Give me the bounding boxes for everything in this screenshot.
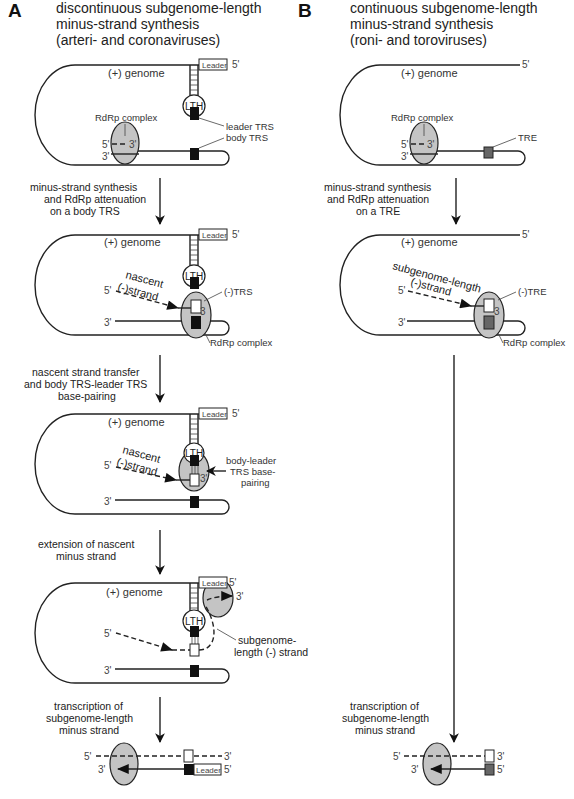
end-label: 3' [104, 665, 112, 676]
pairing-label: TRS base- [230, 466, 275, 477]
panel-b-title-2: minus-strand synthesis [350, 16, 493, 32]
pairing-label: pairing [241, 477, 270, 488]
end-label: 3' [411, 764, 419, 775]
genome-label: (+) genome [108, 416, 165, 428]
step-text: on a TRE [356, 205, 400, 217]
end-label: 5' [497, 764, 505, 775]
stage-a3: Leader 5' (+) genome LTH 3' nascent (-)s… [35, 408, 276, 514]
five-prime-label: 5' [229, 577, 237, 588]
end-label: 5' [398, 285, 406, 296]
leader-label: Leader [202, 231, 227, 240]
leader-label: Leader [202, 61, 227, 70]
five-prime-label: 5' [232, 229, 240, 240]
step-text: minus strand [59, 724, 119, 736]
genome-label: (+) genome [108, 67, 165, 79]
rdrp-complex [181, 292, 211, 338]
panel-b-letter: B [298, 0, 312, 21]
end-label: 5' [224, 764, 232, 775]
end-label: 3' [224, 751, 232, 762]
rdrp-label: RdRp complex [391, 112, 454, 123]
step-text: minus strand [56, 550, 116, 562]
leader-label: Leader [202, 410, 227, 419]
end-label: 3' [98, 764, 106, 775]
panel-a-title-3: (arteri- and coronaviruses) [56, 32, 220, 48]
step-text: minus-strand synthesis [30, 181, 137, 193]
genome-label: (+) genome [401, 67, 458, 79]
lth-label: LTH [185, 616, 203, 627]
step-text: nascent strand transfer [32, 366, 140, 378]
rdrp-complex [110, 743, 138, 785]
five-prime-label: 5' [522, 59, 530, 70]
step-text: and body TRS-leader TRS [24, 378, 147, 390]
end-label: 3' [401, 151, 409, 162]
end-label: 3 [200, 306, 206, 317]
genome-label: (+) genome [401, 236, 458, 248]
leader-label: Leader [196, 766, 221, 775]
stem-ladder [190, 70, 198, 95]
pairing-label: body-leader [226, 455, 276, 466]
step-text: subgenome-length [46, 712, 133, 724]
end-label: 3' [104, 317, 112, 328]
leader-label: Leader [202, 579, 227, 588]
stage-a1: Leader 5' (+) genome LTH leader TRS body… [35, 59, 274, 165]
step-text: minus strand [355, 724, 415, 736]
panel-a-title-1: discontinuous subgenome-length [56, 0, 261, 16]
end-label: 3 [494, 306, 500, 317]
five-prime-label: 5' [522, 229, 530, 240]
step-text: extension of nascent [38, 538, 134, 550]
stage-a5: Leader 5' 3' 3' 5' [84, 743, 232, 785]
sg-label: subgenome- [238, 634, 297, 646]
end-label: 3' [427, 139, 435, 150]
rdrp-label: RdRp complex [210, 337, 273, 348]
genome-label: (+) genome [104, 236, 161, 248]
step-text: and RdRp attenuation [44, 193, 146, 205]
panel-b-title-1: continuous subgenome-length [350, 0, 538, 16]
three-prime-label: 3' [236, 591, 244, 602]
end-label: 5' [102, 139, 110, 150]
five-prime-label: 5' [232, 408, 240, 419]
end-label: 5' [393, 751, 401, 762]
step-text: base-pairing [58, 390, 116, 402]
step-text: transcription of [350, 700, 419, 712]
panel-a-letter: A [8, 0, 22, 21]
sg-label: length (-) strand [234, 646, 308, 658]
end-label: 5' [104, 628, 112, 639]
step-text: minus-strand synthesis [324, 181, 431, 193]
subgenomic-minus-strand-diagram: A discontinuous subgenome-length minus-s… [0, 0, 574, 799]
end-label: 3' [398, 317, 406, 328]
neg-tre-label: (-)TRE [518, 286, 547, 297]
genome-label: (+) genome [106, 586, 163, 598]
rdrp-complex [423, 743, 451, 785]
panel-b: B continuous subgenome-length minus-stra… [298, 0, 566, 785]
tre-label: TRE [518, 132, 537, 143]
rdrp-label: RdRp complex [503, 337, 566, 348]
neg-trs-label: (-)TRS [224, 286, 253, 297]
rdrp-label: RdRp complex [95, 112, 158, 123]
panel-a-title-2: minus-strand synthesis [56, 16, 199, 32]
end-label: 5' [84, 751, 92, 762]
panel-b-title-3: (roni- and toroviruses) [350, 32, 487, 48]
end-label: 3' [104, 496, 112, 507]
stage-b2: 5' (+) genome 3 subgenome-length (-)stra… [340, 229, 566, 348]
five-prime-label: 5' [232, 59, 240, 70]
stage-a2: Leader 5' (+) genome LTH 3 nascent (-)st… [35, 229, 273, 348]
panel-a: A discontinuous subgenome-length minus-s… [8, 0, 308, 785]
stage-b1: 5' (+) genome RdRp complex 5' 3' 3' TRE [340, 59, 537, 165]
end-label: 3' [200, 473, 208, 484]
leader-trs [190, 107, 199, 120]
step-text: and RdRp attenuation [327, 193, 429, 205]
end-label: 3' [102, 151, 110, 162]
neg-tre [484, 299, 494, 312]
leader-trs-label: leader TRS [226, 121, 274, 132]
stage-b3: 5' 3' 3' 5' [393, 743, 505, 785]
body-trs-label: body TRS [226, 132, 268, 143]
neg-trs [190, 474, 199, 486]
genome-strand [35, 583, 229, 683]
end-label: 5' [104, 285, 112, 296]
end-label: 3' [129, 139, 137, 150]
step-text: on a body TRS [50, 205, 120, 217]
stage-a4: Leader 5' 3' (+) genome LTH 5' 3' subgen… [35, 577, 308, 683]
body-trs [190, 148, 199, 160]
step-text: subgenome-length [342, 712, 429, 724]
end-label: 3' [497, 751, 505, 762]
